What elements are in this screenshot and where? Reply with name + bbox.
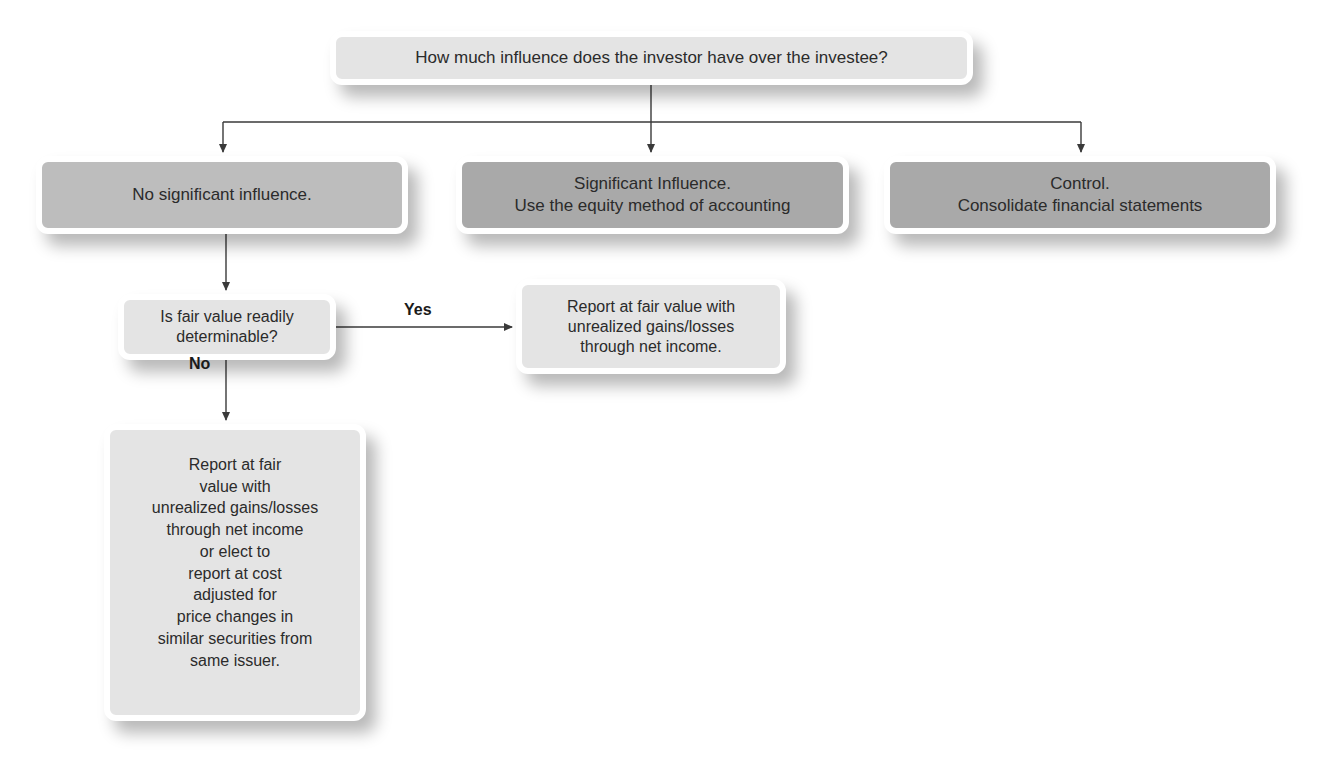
no-outcome-line-9: similar securities from	[158, 628, 313, 650]
no-outcome-line-8: price changes in	[177, 606, 294, 628]
yes-outcome-line-3: through net income.	[580, 337, 721, 357]
yes-outcome-line-1: Report at fair value with	[567, 297, 735, 317]
fair-value-question-line-1: Is fair value readily	[160, 307, 293, 327]
fair-value-question-line-2: determinable?	[176, 327, 277, 347]
significant-influence-title: Significant Influence.	[574, 173, 731, 195]
root-question-box: How much influence does the investor hav…	[330, 31, 973, 85]
no-significant-influence-text: No significant influence.	[132, 184, 312, 206]
no-outcome-line-5: or elect to	[200, 541, 270, 563]
yes-outcome-box: Report at fair value with unrealized gai…	[516, 279, 786, 374]
yes-edge-label: Yes	[404, 301, 432, 319]
yes-outcome-line-2: unrealized gains/losses	[568, 317, 734, 337]
significant-influence-box: Significant Influence. Use the equity me…	[456, 156, 849, 234]
no-edge-label: No	[189, 355, 210, 373]
root-question-text: How much influence does the investor hav…	[415, 47, 888, 69]
fair-value-question-box: Is fair value readily determinable?	[118, 294, 336, 360]
control-box: Control. Consolidate financial statement…	[884, 156, 1276, 234]
no-outcome-line-2: value with	[199, 476, 270, 498]
no-significant-influence-box: No significant influence.	[36, 156, 408, 234]
no-outcome-line-3: unrealized gains/losses	[152, 497, 318, 519]
no-outcome-line-7: adjusted for	[193, 584, 277, 606]
no-outcome-box: Report at fair value with unrealized gai…	[104, 424, 366, 721]
no-outcome-line-10: same issuer.	[190, 650, 280, 672]
flowchart-canvas: How much influence does the investor hav…	[0, 0, 1319, 770]
control-method: Consolidate financial statements	[958, 195, 1203, 217]
no-outcome-line-1: Report at fair	[189, 454, 281, 476]
significant-influence-method: Use the equity method of accounting	[515, 195, 791, 217]
no-outcome-line-6: report at cost	[188, 563, 281, 585]
control-title: Control.	[1050, 173, 1110, 195]
no-outcome-line-4: through net income	[167, 519, 304, 541]
